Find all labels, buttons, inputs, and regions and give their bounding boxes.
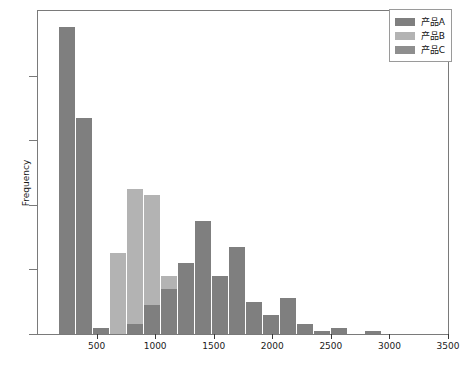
x-axis-tick-label: 3500 [437,341,460,351]
y-axis-title: Frequency [21,160,31,207]
bar-segment [127,324,143,334]
bar-group [161,276,177,334]
x-axis-tick [97,334,98,339]
x-axis-tick [331,334,332,339]
bar-group [297,324,313,334]
bar-segment [144,195,160,305]
bar-segment [297,324,313,334]
bar-group [178,263,194,334]
x-axis-tick-label: 1000 [144,341,167,351]
legend-label: 产品C [421,43,445,56]
legend-item[interactable]: 产品B [395,29,445,42]
y-axis-tick [29,76,37,77]
bar-segment [161,289,177,334]
x-axis-tick-label: 500 [88,341,105,351]
bar-segment [212,276,228,334]
bar-segment [110,253,126,334]
legend-swatch-icon [395,46,415,54]
bar-segment [229,247,245,334]
bar-segment [246,302,262,334]
plot-area: 020406080 500100015002000250030003500 [38,11,448,334]
x-axis-tick [214,334,215,339]
bar-group [263,315,279,334]
bar-segment [331,328,347,334]
bar-segment [178,263,194,334]
legend-swatch-icon [395,18,415,26]
bar-segment [263,315,279,334]
bar-segment [76,118,92,334]
bar-group [144,195,160,334]
y-axis-tick [29,334,37,335]
chart-legend: 产品A产品B产品C [389,9,452,62]
chart-root: Frequency 020406080 50010001500200025003… [0,0,461,366]
bar-segment [59,27,75,334]
bar-group [212,276,228,334]
bar-segment [365,331,381,334]
x-axis-tick-label: 2000 [261,341,284,351]
x-axis-tick-label: 3000 [378,341,401,351]
bar-group [59,27,75,334]
bar-group [76,118,92,334]
x-axis-tick [448,334,449,339]
bar-segment [161,276,177,289]
legend-swatch-icon [395,32,415,40]
bar-segment [195,221,211,334]
bar-group [331,328,347,334]
legend-item[interactable]: 产品C [395,43,445,56]
y-axis-tick [29,205,37,206]
bar-group [110,253,126,334]
bar-group [229,247,245,334]
bar-segment [144,305,160,334]
bar-group [365,331,381,334]
bar-group [127,189,143,334]
bar-segment [280,298,296,334]
bar-group [195,221,211,334]
x-axis-tick-label: 1500 [202,341,225,351]
legend-item[interactable]: 产品A [395,15,445,28]
bar-group [246,302,262,334]
bar-segment [127,189,143,325]
bar-group [280,298,296,334]
x-axis-tick [155,334,156,339]
bar-segment [314,331,330,334]
x-axis-tick [389,334,390,339]
y-axis-tick [29,140,37,141]
legend-label: 产品A [421,15,445,28]
x-axis-tick [272,334,273,339]
y-axis-tick [29,269,37,270]
x-axis-tick-label: 2500 [319,341,342,351]
bar-group [314,331,330,334]
legend-label: 产品B [421,29,445,42]
